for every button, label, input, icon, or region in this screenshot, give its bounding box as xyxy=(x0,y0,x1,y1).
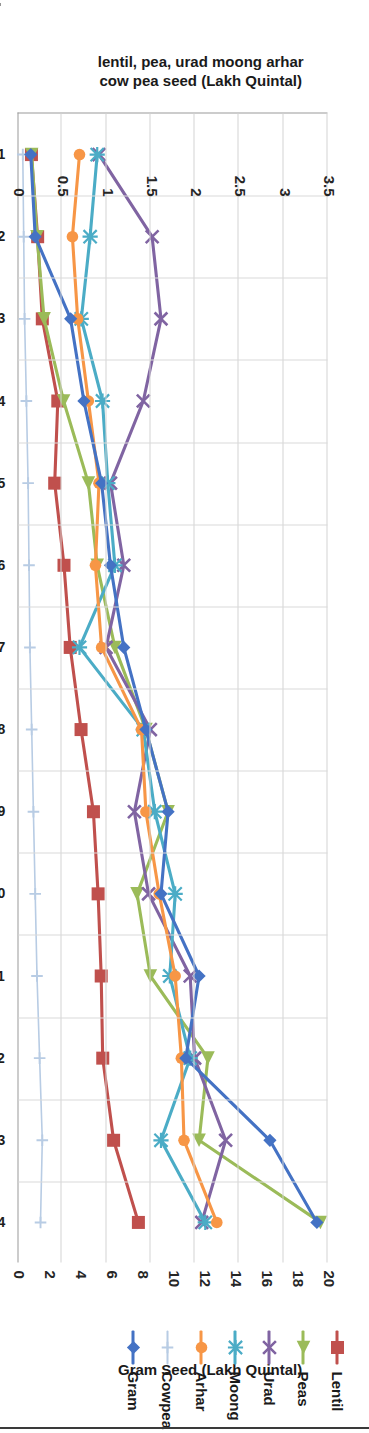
data-point-marker xyxy=(130,887,144,901)
legend-item-peas[interactable]: Peas xyxy=(295,1330,311,1429)
legend-line-swatch xyxy=(336,1330,339,1364)
x-axis-tick: 2008-09 xyxy=(0,802,14,818)
secondary-axis-tick: 20 xyxy=(320,1270,337,1316)
gridline-horizontal xyxy=(193,113,194,1262)
data-point-marker xyxy=(27,805,39,817)
legend-item-gram[interactable]: Gram xyxy=(125,1330,141,1429)
secondary-axis-tick: 12 xyxy=(196,1270,213,1316)
legend-marker-icon xyxy=(294,1338,312,1356)
gridline-vertical xyxy=(18,606,327,607)
data-point-marker xyxy=(82,229,97,244)
legend-marker-icon xyxy=(260,1338,278,1356)
data-point-marker xyxy=(227,1339,242,1354)
legend-line-swatch xyxy=(166,1330,168,1364)
secondary-axis-tick: 0 xyxy=(10,1270,27,1316)
legend-label: Lentil xyxy=(329,1371,346,1411)
gridline-vertical xyxy=(18,688,327,689)
data-point-marker xyxy=(131,1215,144,1228)
gridline-horizontal xyxy=(282,113,283,1262)
secondary-axis-tick: 16 xyxy=(258,1270,275,1316)
legend-label: Urad xyxy=(261,1371,278,1405)
data-point-marker xyxy=(296,1340,310,1354)
data-point-marker xyxy=(197,1214,212,1229)
data-point-marker xyxy=(126,1340,139,1353)
secondary-axis-tick: 14 xyxy=(227,1270,244,1316)
legend-item-lentil[interactable]: Lentil xyxy=(329,1330,345,1429)
legend-marker-icon xyxy=(158,1338,176,1356)
x-axis-tick: 2000-01 xyxy=(0,145,14,161)
legend-marker-icon xyxy=(124,1338,142,1356)
data-point-marker xyxy=(331,1341,344,1354)
legend-label: Peas xyxy=(295,1371,312,1406)
data-point-marker xyxy=(161,1341,173,1353)
legend-line-swatch xyxy=(234,1330,237,1364)
legend-item-arhar[interactable]: Arhar xyxy=(193,1330,209,1429)
data-point-marker xyxy=(167,886,182,901)
legend-item-cowpea[interactable]: Cowpea xyxy=(159,1330,175,1429)
primary-axis-tick: 2 xyxy=(187,150,204,196)
x-axis-tick: 2009-10 xyxy=(0,884,14,900)
legend-line-swatch xyxy=(132,1330,135,1364)
legend-label: Moong xyxy=(227,1371,244,1420)
line-chart: lentil, pea, urad moong arhar cow pea se… xyxy=(0,0,369,1433)
gridline-horizontal xyxy=(105,113,106,1262)
legend-label: Arhar xyxy=(193,1371,210,1411)
legend-line-swatch xyxy=(200,1330,203,1364)
x-axis-tick: 2010-11 xyxy=(0,967,14,983)
data-point-marker xyxy=(17,230,29,242)
legend-item-urad[interactable]: Urad xyxy=(261,1330,277,1429)
gridline-vertical xyxy=(18,359,327,360)
secondary-axis-tick: 4 xyxy=(72,1270,89,1316)
gridline-vertical xyxy=(18,524,327,525)
data-point-marker xyxy=(86,805,99,818)
gridline-horizontal xyxy=(326,113,327,1262)
x-axis-tick: 2012-13 xyxy=(0,1131,14,1147)
data-point-marker xyxy=(73,148,85,160)
x-axis-tick: 2007-08 xyxy=(0,720,14,736)
legend-marker-icon xyxy=(328,1338,346,1356)
gridline-vertical xyxy=(18,934,327,935)
gridline-horizontal xyxy=(60,113,61,1262)
data-point-marker xyxy=(96,1051,109,1064)
plot-area xyxy=(17,112,327,1262)
data-point-marker xyxy=(57,558,70,571)
data-point-marker xyxy=(20,395,32,407)
data-point-marker xyxy=(201,1051,215,1065)
legend-line-swatch xyxy=(302,1330,305,1364)
data-point-marker xyxy=(34,1216,46,1228)
data-point-marker xyxy=(22,477,34,489)
x-axis-tick: 2006-07 xyxy=(0,638,14,654)
data-point-marker xyxy=(31,970,43,982)
legend-marker-icon xyxy=(192,1338,210,1356)
secondary-axis-tick: 10 xyxy=(165,1270,182,1316)
gridline-vertical xyxy=(18,770,327,771)
x-axis-tick: 2003-04 xyxy=(0,392,14,408)
legend-item-moong[interactable]: Moong xyxy=(227,1330,243,1429)
data-point-marker xyxy=(91,887,104,900)
x-axis-tick: 2011-12 xyxy=(0,1049,14,1065)
secondary-axis-tick: 2 xyxy=(41,1270,58,1316)
data-point-marker xyxy=(81,476,95,490)
data-point-marker xyxy=(263,1341,276,1354)
primary-axis-title: lentil, pea, urad moong arhar cow pea se… xyxy=(85,52,315,90)
data-point-marker xyxy=(89,559,101,571)
legend-line-swatch xyxy=(268,1330,271,1364)
x-axis-tick: 2001-02 xyxy=(0,227,14,243)
data-point-marker xyxy=(195,1341,207,1353)
primary-axis-tick: 0.5 xyxy=(54,150,71,196)
data-point-marker xyxy=(153,1132,168,1147)
gridline-horizontal xyxy=(237,113,238,1262)
x-axis-tick: 2004-05 xyxy=(0,474,14,490)
gridline-vertical xyxy=(18,442,327,443)
secondary-axis-tick: 8 xyxy=(134,1270,151,1316)
data-point-marker xyxy=(18,313,30,325)
primary-axis-tick: 3.5 xyxy=(320,150,337,196)
x-axis-tick: 2005-06 xyxy=(0,556,14,572)
data-point-marker xyxy=(48,476,61,489)
data-point-marker xyxy=(178,1134,190,1146)
legend-label: Gram xyxy=(125,1371,142,1410)
data-point-marker xyxy=(94,393,109,408)
secondary-axis-tick: 18 xyxy=(289,1270,306,1316)
data-point-marker xyxy=(74,723,87,736)
data-point-marker xyxy=(29,888,41,900)
